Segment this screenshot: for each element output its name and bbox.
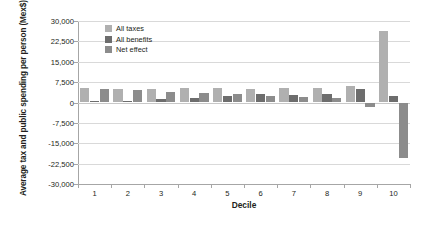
bar [256, 94, 265, 102]
bar-group [377, 21, 410, 184]
bar [356, 89, 365, 103]
bar [289, 95, 298, 102]
x-tick-mark [211, 184, 212, 188]
bar-group [211, 21, 244, 184]
legend-swatch-icon [105, 36, 112, 43]
bar [180, 88, 189, 103]
bar [213, 88, 222, 102]
bar [147, 89, 156, 103]
bar [223, 96, 232, 103]
x-tick-mark [410, 184, 411, 188]
x-tick-mark [144, 184, 145, 188]
bar [313, 88, 322, 102]
legend-label: All benefits [116, 35, 152, 44]
x-tick-label: 7 [292, 189, 296, 198]
x-tick-label: 4 [192, 189, 196, 198]
y-tick-label: -30,000 [28, 180, 74, 189]
bar [190, 98, 199, 103]
bar [123, 101, 132, 103]
bar [156, 99, 165, 103]
bar [365, 103, 374, 108]
x-tick-mark [111, 184, 112, 188]
bar [399, 103, 408, 159]
x-tick-mark [344, 184, 345, 188]
x-axis-tick-labels: 12345678910 [78, 184, 410, 200]
y-axis-tick-labels: 30,00022,50015,0007,5000-7,500-15,000-22… [26, 0, 74, 196]
bar [233, 94, 242, 102]
bar [80, 88, 89, 102]
bar [90, 101, 99, 102]
bar-group [310, 21, 343, 184]
y-tick-label: 7,500 [28, 78, 74, 87]
y-tick-label: 30,000 [28, 17, 74, 26]
chart-legend: All taxesAll benefitsNet effect [105, 24, 152, 54]
bar [133, 90, 142, 102]
x-tick-mark [277, 184, 278, 188]
bar [299, 97, 308, 103]
bar [379, 31, 388, 102]
x-tick-mark [78, 184, 79, 188]
x-tick-label: 5 [225, 189, 229, 198]
x-tick-label: 6 [258, 189, 262, 198]
bar [389, 96, 398, 103]
y-tick-label: 22,500 [28, 37, 74, 46]
legend-item[interactable]: All benefits [105, 35, 152, 44]
bar-group [244, 21, 277, 184]
y-tick-label: -15,000 [28, 139, 74, 148]
x-tick-label: 1 [92, 189, 96, 198]
bar [322, 94, 331, 103]
x-tick-label: 8 [325, 189, 329, 198]
x-tick-label: 9 [358, 189, 362, 198]
y-tick-label: -7,500 [28, 118, 74, 127]
bar [113, 89, 122, 103]
legend-swatch-icon [105, 25, 112, 32]
y-tick-label: 15,000 [28, 57, 74, 66]
x-tick-label: 3 [159, 189, 163, 198]
x-tick-mark [310, 184, 311, 188]
bar [246, 89, 255, 103]
x-tick-label: 2 [126, 189, 130, 198]
x-tick-mark [377, 184, 378, 188]
y-tick-label: 0 [28, 98, 74, 107]
bar [332, 98, 341, 103]
bar [100, 89, 109, 103]
bar [166, 92, 175, 103]
bar-group [344, 21, 377, 184]
bar [279, 88, 288, 103]
legend-swatch-icon [105, 46, 112, 53]
y-tick-label: -22,500 [28, 159, 74, 168]
legend-item[interactable]: Net effect [105, 45, 152, 54]
legend-item[interactable]: All taxes [105, 24, 152, 33]
bar-group [277, 21, 310, 184]
x-axis-title: Decile [78, 200, 410, 210]
bar-group [178, 21, 211, 184]
legend-label: All taxes [116, 24, 144, 33]
bar [199, 93, 208, 103]
x-tick-mark [244, 184, 245, 188]
x-tick-mark [178, 184, 179, 188]
chart-figure: Average tax and public spending per pers… [0, 0, 423, 226]
bar [346, 86, 355, 102]
bar [266, 96, 275, 102]
legend-label: Net effect [116, 45, 148, 54]
x-tick-label: 10 [389, 189, 397, 198]
